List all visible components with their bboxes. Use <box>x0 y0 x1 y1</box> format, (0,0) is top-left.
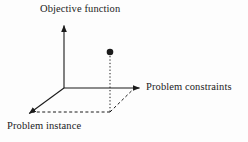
problem-instance-axis-label: Problem instance <box>7 120 81 132</box>
constraint-projection-line <box>110 90 133 113</box>
problem-constraints-axis-label: Problem constraints <box>146 81 232 93</box>
objective-function-axis-label: Objective function <box>40 3 120 15</box>
solution-point <box>107 49 114 56</box>
problem-instance-axis-line <box>29 88 64 114</box>
objective-function-diagram: Objective function Problem constraints P… <box>0 0 248 142</box>
